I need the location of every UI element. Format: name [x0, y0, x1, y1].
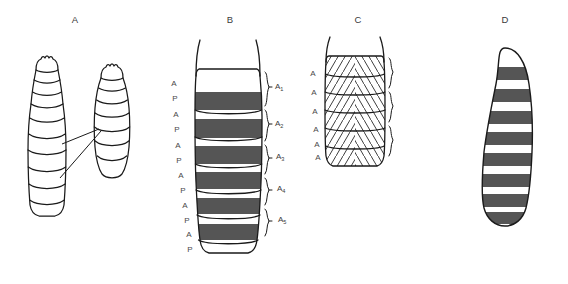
panel-d-drawing — [0, 0, 568, 284]
figure-canvas: A B C D — [0, 0, 568, 284]
